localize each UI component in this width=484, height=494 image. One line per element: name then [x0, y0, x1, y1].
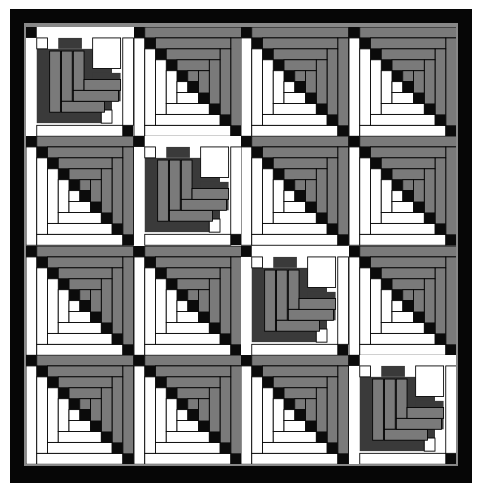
quilt-grid	[26, 27, 456, 464]
log-cabin-block	[241, 27, 349, 136]
heart-block	[26, 27, 134, 136]
heart-block	[241, 246, 349, 355]
log-cabin-block	[26, 136, 134, 245]
heart-block	[134, 136, 242, 245]
log-cabin-block	[26, 355, 134, 464]
log-cabin-block	[349, 27, 457, 136]
log-cabin-block	[134, 27, 242, 136]
log-cabin-block	[26, 246, 134, 355]
log-cabin-block	[241, 355, 349, 464]
log-cabin-block	[241, 136, 349, 245]
log-cabin-block	[349, 246, 457, 355]
heart-block	[349, 355, 457, 464]
log-cabin-block	[134, 246, 242, 355]
log-cabin-block	[349, 136, 457, 245]
log-cabin-block	[134, 355, 242, 464]
